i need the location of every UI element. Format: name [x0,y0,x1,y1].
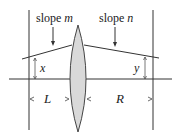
L-right-arrow-icon [65,97,69,101]
slope-m-arrowhead-icon [51,41,55,46]
slope-n-arrowhead-icon [113,42,117,47]
lens-diagram-svg: slope m slope n x y L R [0,0,178,139]
angle-y-label: y [133,61,140,75]
R-right-arrow-icon [148,97,152,101]
R-left-arrow-icon [87,97,91,101]
lens [70,25,86,132]
distance-L-label: L [43,91,51,106]
L-left-arrow-icon [30,97,34,101]
angle-x-label: x [39,61,46,75]
ray-right [84,45,159,58]
lens-diagram: slope m slope n x y L R [0,0,178,139]
slope-m-label: slope m [36,11,73,25]
slope-n-label: slope n [99,11,133,25]
distance-R-label: R [115,91,124,106]
